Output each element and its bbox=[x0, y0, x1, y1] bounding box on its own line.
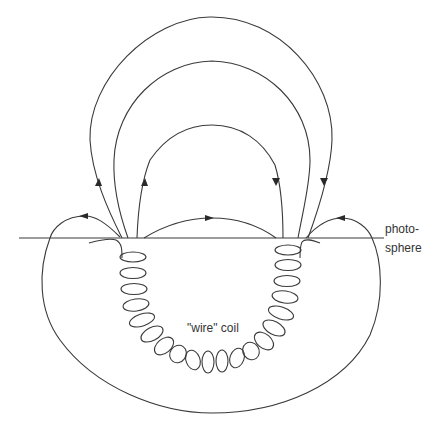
field-line-right-low-arc bbox=[306, 218, 372, 238]
field-line-left-low-arc bbox=[50, 216, 120, 238]
wire-coil bbox=[120, 245, 301, 373]
arrow-up-left-outer bbox=[95, 178, 102, 186]
coil-tail-right bbox=[300, 240, 320, 258]
field-line-outer-arc bbox=[90, 17, 332, 238]
arrow-left-low-right bbox=[336, 215, 345, 221]
photosphere-label-line1: photo- bbox=[385, 222, 419, 236]
coil-tail-left bbox=[89, 239, 122, 258]
flux-tube-diagram: photo- sphere "wire" coil bbox=[0, 0, 439, 430]
arrow-down-right-outer bbox=[320, 178, 328, 186]
coil-label: "wire" coil bbox=[187, 321, 239, 335]
arrow-up-left-middle bbox=[141, 178, 148, 186]
photosphere-label-line2: sphere bbox=[385, 241, 422, 255]
arrow-right-central bbox=[205, 215, 214, 221]
field-line-central-low-arc bbox=[144, 218, 276, 238]
field-line-middle-arc bbox=[114, 61, 310, 238]
arrow-left-low-left bbox=[79, 213, 88, 219]
field-line-inner-arc bbox=[137, 125, 283, 238]
